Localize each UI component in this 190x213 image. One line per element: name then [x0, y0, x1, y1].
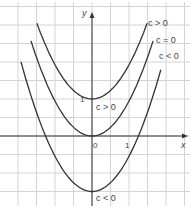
label-vertex-c-negative: c < 0 — [96, 193, 116, 203]
label-vertex-c-positive: c > 0 — [96, 102, 116, 112]
x-axis-label: x — [180, 140, 186, 150]
y-axis-arrow-icon — [90, 12, 95, 18]
x-tick-1: 1 — [125, 141, 130, 150]
y-axis-label: y — [81, 8, 87, 18]
label-curve-c-positive: c > 0 — [148, 18, 168, 28]
label-curve-c-negative: c < 0 — [159, 51, 179, 61]
curve-c-negative — [21, 62, 161, 192]
origin-label: 0 — [93, 141, 98, 150]
grid — [0, 2, 190, 206]
parabola-family-plot: y x 0 1 1 c > 0 c = 0 c < 0 c > 0 c < 0 — [0, 0, 190, 213]
y-tick-1: 1 — [80, 95, 85, 104]
label-curve-c-zero: c = 0 — [156, 35, 176, 45]
